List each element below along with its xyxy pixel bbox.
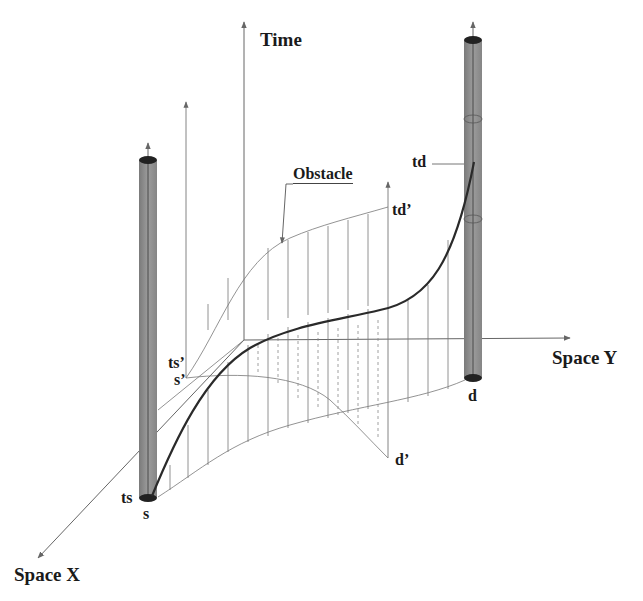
space-y-axis [244,338,570,340]
time-axis-label: Time [260,30,302,49]
space-x-axis-label: Space X [14,565,80,584]
obstacle-leader-line [282,184,293,243]
d-prime-label: d’ [395,452,409,468]
space-y-axis-label: Space Y [552,348,617,367]
ts-label: ts [121,490,133,506]
obstacle-label: Obstacle [293,166,353,184]
d-label: d [468,388,477,404]
source-point [139,494,157,502]
obstacle-top-edge [186,207,388,378]
destination-cylinder [464,22,482,382]
trajectory-path [152,162,474,496]
ts-prime-label: ts’ [168,355,185,371]
swept-lower-edge [158,380,465,497]
s-label: s [143,506,149,522]
td-label: td [412,154,426,170]
destination-point [464,374,482,382]
source-cylinder [139,143,157,502]
hidden-lines [258,320,378,440]
space-time-diagram [0,0,643,601]
destination-cylinder-top-cap [464,36,482,44]
axes [38,22,570,558]
source-cylinder-top-cap [139,156,157,164]
s-prime-label: s’ [174,372,186,388]
hatching [170,214,448,490]
td-prime-label: td’ [392,202,412,218]
obstacle-surface [158,207,465,497]
